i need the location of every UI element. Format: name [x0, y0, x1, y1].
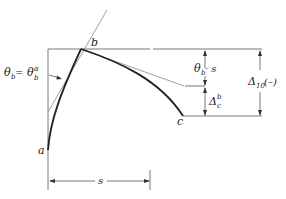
- elastic-curve-b-c: [81, 49, 183, 116]
- arrowhead: [203, 80, 207, 86]
- delta-c-symbol: Δ: [208, 95, 217, 108]
- arrowhead: [144, 179, 150, 183]
- delta-10-symbol: Δ: [247, 75, 256, 88]
- theta-symbol: θ: [4, 66, 11, 79]
- theta-alpha-subscript: b: [34, 74, 39, 82]
- deflection-diagram: b a c θ b = θ α b θ b · s Δ b c Δ 10 (–)…: [0, 0, 286, 199]
- theta-alpha-symbol: θ: [27, 66, 34, 79]
- delta-10-sign: (–): [264, 76, 277, 87]
- theta-times-s-label: θ b · s: [194, 62, 217, 77]
- arrowhead: [203, 50, 207, 56]
- arrowhead: [203, 87, 207, 93]
- delta-c-label: Δ b c: [208, 93, 222, 110]
- theta-s-rest: · s: [205, 63, 217, 74]
- delta-10-label: Δ 10 (–): [247, 75, 277, 90]
- arrowhead: [258, 50, 262, 56]
- theta-s-symbol: θ: [194, 62, 201, 75]
- arrowhead: [258, 110, 262, 116]
- theta-equation-label: θ b = θ α b: [4, 65, 39, 82]
- arrowhead: [203, 110, 207, 116]
- delta-c-subscript: c: [217, 102, 221, 110]
- point-label-a: a: [38, 144, 45, 157]
- span-s-label: s: [98, 175, 103, 186]
- tangent-line-at-b: [48, 10, 107, 112]
- delta-c-superscript: b: [217, 93, 222, 101]
- point-label-c: c: [177, 115, 183, 128]
- equals-sign: =: [15, 67, 23, 78]
- point-label-b: b: [91, 36, 98, 49]
- theta-alpha-superscript: α: [34, 65, 39, 73]
- arrowhead: [49, 179, 55, 183]
- theta-arrowhead: [57, 76, 63, 80]
